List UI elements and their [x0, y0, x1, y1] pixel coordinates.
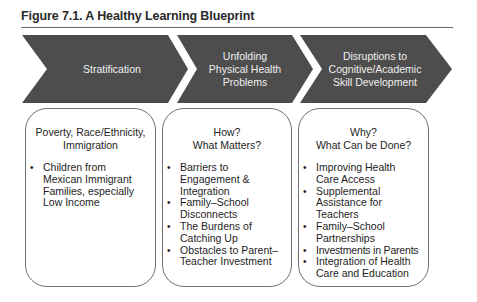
heading-line: Immigration — [26, 139, 155, 152]
box-heading: Poverty, Race/Ethnicity, Immigration — [26, 126, 155, 152]
list-item: Barriers to Engagement & Integration — [163, 162, 291, 197]
heading-line: What Matters? — [163, 139, 291, 152]
list-item: Family–School Disconnects — [163, 197, 291, 221]
heading-line: Poverty, Race/Ethnicity, — [26, 126, 155, 139]
chevron-label-cognitive: Disruptions to Cognitive/Academic Skill … — [318, 35, 432, 103]
chevron-text-line: Physical Health — [209, 63, 281, 76]
list-item: Improving Health Care Access — [299, 162, 428, 186]
box-list: Improving Health Care Access Supplementa… — [299, 162, 428, 280]
chevron-text-line: Skill Development — [329, 76, 422, 89]
chevron-text-line: Unfolding — [209, 50, 281, 63]
box-list: Children from Mexican Immigrant Families… — [26, 162, 155, 209]
box-list: Barriers to Engagement & Integration Fam… — [163, 162, 291, 268]
heading-line: What Can be Done? — [299, 139, 428, 152]
box-why-what-can-be-done: Why? What Can be Done? Improving Health … — [298, 108, 429, 287]
box-heading: How? What Matters? — [163, 126, 291, 152]
chevron-text-line: Problems — [209, 76, 281, 89]
list-item: The Burdens of Catching Up — [163, 221, 291, 245]
chevron-text-line: Disruptions to — [329, 50, 422, 63]
list-item: Family–School Partnerships — [299, 221, 428, 245]
chevron-label-physical-health: Unfolding Physical Health Problems — [195, 35, 295, 103]
list-item: Children from Mexican Immigrant Families… — [26, 162, 155, 209]
box-stratification: Poverty, Race/Ethnicity, Immigration Chi… — [25, 108, 156, 287]
list-item: Obstacles to Parent–Teacher Investment — [163, 245, 291, 269]
heading-line: How? — [163, 126, 291, 139]
chevron-text: Stratification — [83, 63, 141, 76]
chevron-label-stratification: Stratification — [52, 35, 172, 103]
list-item: Integration of Health Care and Education — [299, 256, 428, 280]
heading-line: Why? — [299, 126, 428, 139]
list-item: Supplemental Assistance for Teachers — [299, 186, 428, 221]
box-heading: Why? What Can be Done? — [299, 126, 428, 152]
chevron-text-line: Cognitive/Academic — [329, 63, 422, 76]
box-how-what-matters: How? What Matters? Barriers to Engagemen… — [162, 108, 292, 287]
